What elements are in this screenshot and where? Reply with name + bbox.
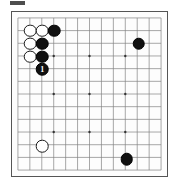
white-stone[interactable] [24, 50, 37, 63]
go-diagram-root: 1 [0, 0, 179, 189]
go-board-frame: 1 [11, 11, 168, 177]
go-board-surface[interactable]: 1 [12, 12, 167, 176]
page-artifact-speck [10, 1, 25, 5]
move-number-label: 1 [40, 65, 44, 73]
go-stone-layer: 1 [12, 12, 167, 176]
black-stone[interactable] [120, 153, 133, 166]
white-stone[interactable] [24, 25, 37, 38]
white-stone[interactable] [36, 140, 49, 153]
black-stone[interactable] [48, 25, 61, 38]
black-stone[interactable]: 1 [36, 63, 49, 76]
white-stone[interactable] [24, 37, 37, 50]
black-stone[interactable] [36, 37, 49, 50]
black-stone[interactable] [36, 50, 49, 63]
white-stone[interactable] [36, 25, 49, 38]
black-stone[interactable] [133, 37, 146, 50]
